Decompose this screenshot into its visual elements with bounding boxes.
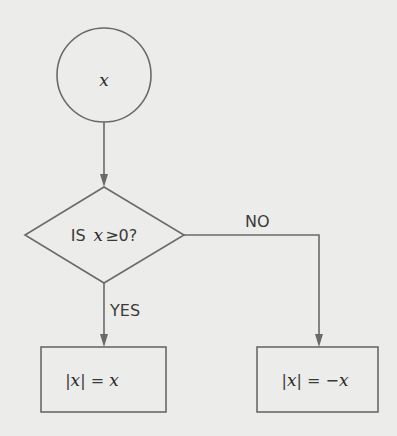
connector-no [184, 235, 319, 338]
arrowhead-icon [315, 334, 323, 347]
arrowhead-icon [100, 174, 108, 187]
yes-result-label: |x| = x [65, 370, 119, 390]
branch-label-no: NO [245, 212, 270, 231]
start-label: x [99, 70, 109, 90]
flowchart: x ISx≥0? NO YES |x| = x |x| = −x [0, 0, 397, 436]
branch-label-yes: YES [109, 301, 140, 320]
decision-label: ISx≥0? [71, 225, 138, 245]
arrowhead-icon [100, 334, 108, 347]
no-result-label: |x| = −x [282, 370, 349, 390]
